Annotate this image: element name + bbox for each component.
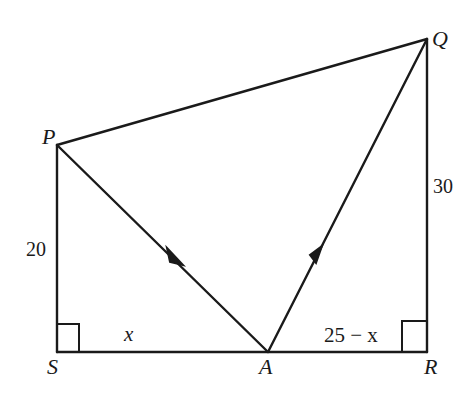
right-angle-s-icon [57,324,79,352]
segment-aq [268,39,427,352]
label-r: R [423,354,438,379]
length-qr: 30 [433,175,453,197]
length-ar: 25 − x [324,323,378,347]
arrow-pa-icon [167,248,183,265]
length-ps: 20 [26,238,46,260]
label-s: S [47,354,58,379]
geometry-diagram: P Q S A R 20 30 x 25 − x [0,0,476,401]
label-q: Q [432,26,448,51]
segment-pq [57,39,427,145]
segment-pa [57,145,268,352]
label-p: P [41,124,55,149]
length-sa: x [123,322,134,346]
arrow-aq-icon [310,246,322,263]
right-angle-r-icon [402,321,427,352]
label-a: A [257,354,273,379]
